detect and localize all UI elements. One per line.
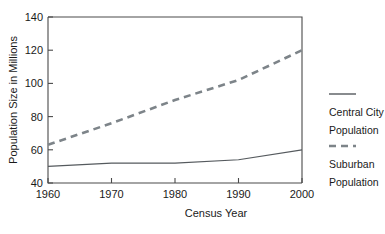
y-tick-label-120: 120 [25, 44, 43, 56]
y-tick-label-140: 140 [25, 11, 43, 23]
legend-label-central-city-line2: Population [329, 124, 379, 136]
x-tick-label-1970: 1970 [99, 188, 123, 200]
series-line-suburban [48, 50, 302, 145]
legend-label-suburban-line1: Suburban [329, 158, 375, 170]
x-tick-label-2000: 2000 [290, 188, 314, 200]
y-axis-title: Population Size in Millions [7, 36, 19, 164]
legend-label-central-city-line1: Central City [329, 106, 385, 118]
y-tick-label-80: 80 [31, 111, 43, 123]
legend-label-suburban-line2: Population [329, 176, 379, 188]
x-tick-labels: 1960 1970 1980 1990 2000 [36, 188, 314, 200]
x-tick-marks [48, 178, 302, 183]
line-chart: 40 60 80 100 120 140 1960 1970 1980 1990… [0, 0, 385, 234]
legend: Central City Population Suburban Populat… [329, 94, 385, 188]
x-axis-title: Census Year [185, 207, 248, 219]
y-tick-label-60: 60 [31, 144, 43, 156]
y-tick-labels: 40 60 80 100 120 140 [25, 11, 43, 189]
y-tick-label-100: 100 [25, 77, 43, 89]
y-tick-marks [48, 17, 53, 183]
x-tick-label-1960: 1960 [36, 188, 60, 200]
x-tick-label-1980: 1980 [163, 188, 187, 200]
x-tick-label-1990: 1990 [226, 188, 250, 200]
chart-container: 40 60 80 100 120 140 1960 1970 1980 1990… [0, 0, 385, 234]
series-line-central-city [48, 150, 302, 167]
